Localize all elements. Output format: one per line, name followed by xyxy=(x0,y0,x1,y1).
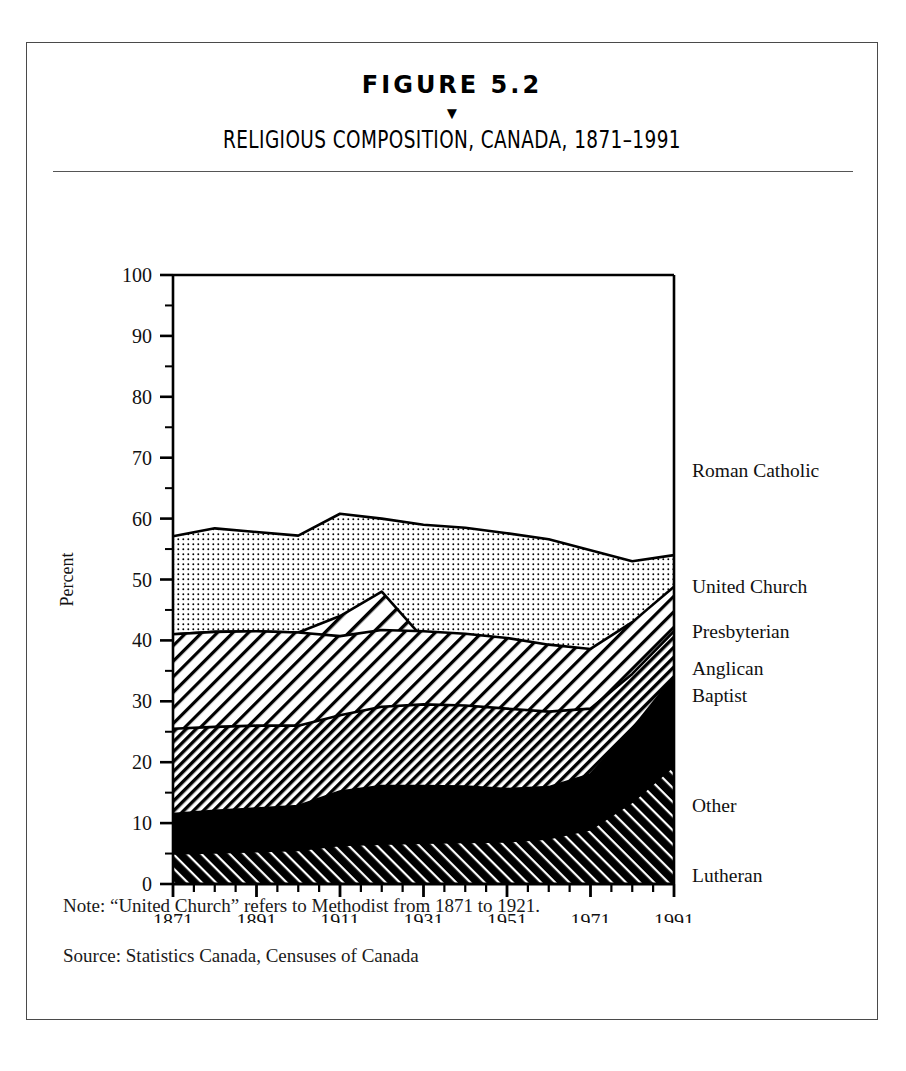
figure-title: RELIGIOUS COMPOSITION, CANADA, 1871–1991 xyxy=(104,125,801,154)
y-tick-label-90: 90 xyxy=(132,325,152,347)
chart-area: 1009080706050403020100 18711891191119311… xyxy=(27,183,879,923)
note-text: Note: “United Church” refers to Methodis… xyxy=(63,893,843,919)
area-series-group xyxy=(173,275,674,884)
y-tick-label-0: 0 xyxy=(142,873,152,895)
legend-label-anglican: Anglican xyxy=(692,658,764,679)
y-tick-label-80: 80 xyxy=(132,386,152,408)
y-tick-label-20: 20 xyxy=(132,751,152,773)
y-tick-labels: 1009080706050403020100 xyxy=(122,264,152,895)
figure-page: FIGURE 5.2 ▼ RELIGIOUS COMPOSITION, CANA… xyxy=(0,0,906,1071)
area-roman-catholic xyxy=(173,275,674,561)
legend-label-united-church: United Church xyxy=(692,576,808,597)
figure-frame: FIGURE 5.2 ▼ RELIGIOUS COMPOSITION, CANA… xyxy=(26,42,878,1020)
figure-number: FIGURE 5.2 xyxy=(27,71,877,99)
legend-label-other: Other xyxy=(692,795,737,816)
source-text: Source: Statistics Canada, Censuses of C… xyxy=(63,943,843,969)
footnotes: Note: “United Church” refers to Methodis… xyxy=(63,893,843,992)
legend-label-presbyterian: Presbyterian xyxy=(692,621,790,642)
stacked-area-chart: 1009080706050403020100 18711891191119311… xyxy=(27,183,879,923)
legend-label-baptist: Baptist xyxy=(692,685,748,706)
y-tick-label-40: 40 xyxy=(132,629,152,651)
y-tick-label-60: 60 xyxy=(132,508,152,530)
legend-label-roman-catholic: Roman Catholic xyxy=(692,460,820,481)
y-tick-label-30: 30 xyxy=(132,690,152,712)
legend-group: Roman CatholicUnited ChurchPresbyterianA… xyxy=(692,460,820,886)
y-tick-label-10: 10 xyxy=(132,812,152,834)
down-triangle-icon: ▼ xyxy=(27,105,877,122)
legend-label-lutheran: Lutheran xyxy=(692,865,763,886)
y-tick-label-50: 50 xyxy=(132,569,152,591)
y-axis-title: Percent xyxy=(57,553,77,607)
y-tick-label-70: 70 xyxy=(132,447,152,469)
y-tick-label-100: 100 xyxy=(122,264,152,286)
title-divider xyxy=(53,171,853,172)
